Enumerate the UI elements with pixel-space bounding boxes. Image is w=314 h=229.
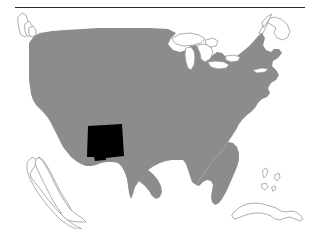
horizontal-rule (15, 7, 305, 8)
bahamas-island-south-shape (262, 183, 268, 190)
map-landmass-group (29, 28, 282, 205)
cuba-group (232, 203, 303, 221)
bahamas-island-east-shape (275, 173, 280, 181)
vancouver-island-group (18, 13, 36, 37)
lake-superior-shape (172, 33, 205, 46)
contiguous-united-states-shape (29, 28, 282, 199)
bahamas-group (262, 168, 280, 191)
lake-ontario-shape (226, 55, 240, 62)
maine-coast-shape (268, 17, 290, 40)
bahamas-island-small-shape (272, 186, 276, 191)
olympic-peninsula-shape (29, 26, 36, 37)
georgian-bay-shape (206, 38, 218, 47)
highlight-state-group (87, 124, 124, 161)
cuba-shape (232, 203, 303, 221)
us-map-svg (0, 0, 314, 229)
figure-container (0, 0, 314, 229)
bahamas-island-north-shape (263, 168, 268, 178)
baja-california-group (27, 157, 86, 229)
new-mexico-highlight-shape (87, 124, 124, 161)
